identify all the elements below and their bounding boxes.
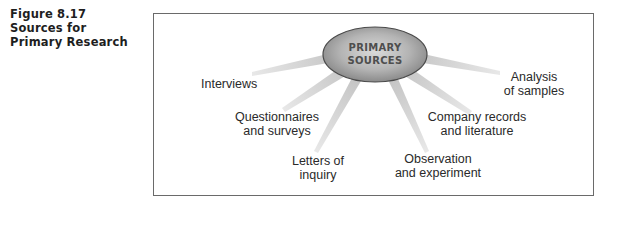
hub-label: PRIMARY SOURCES [335,41,415,67]
node-analysis-line-1: Analysis [496,70,572,84]
hub-label-line-2: SOURCES [335,54,415,67]
node-letters-line-1: Letters of [285,154,351,168]
node-company-records-line-1: Company records [424,110,530,124]
node-observation: Observation and experiment [388,152,488,180]
node-company-records-line-2: and literature [424,124,530,138]
node-questionnaires-line-2: and surveys [232,124,322,138]
node-questionnaires-line-1: Questionnaires [232,110,322,124]
node-letters: Letters of inquiry [285,154,351,182]
node-analysis: Analysis of samples [496,70,572,98]
hub-label-line-1: PRIMARY [335,41,415,54]
node-observation-line-2: and experiment [388,166,488,180]
node-letters-line-2: inquiry [285,168,351,182]
node-interviews: Interviews [201,77,257,91]
node-observation-line-1: Observation [388,152,488,166]
node-analysis-line-2: of samples [496,84,572,98]
node-questionnaires: Questionnaires and surveys [232,110,322,138]
node-company-records: Company records and literature [424,110,530,138]
node-interviews-line-1: Interviews [201,77,257,91]
